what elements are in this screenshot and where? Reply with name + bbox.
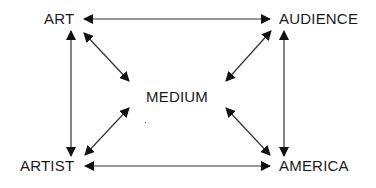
node-artist: ARTIST (20, 158, 74, 174)
stray-dot (145, 122, 146, 123)
edge-audience-medium (226, 31, 271, 81)
diagram-canvas: ART AUDIENCE MEDIUM ARTIST AMERICA (0, 0, 376, 188)
node-medium: MEDIUM (146, 89, 208, 105)
node-america: AMERICA (279, 158, 349, 174)
node-audience: AUDIENCE (279, 11, 358, 27)
edge-art-medium (84, 33, 129, 81)
edge-artist-medium (85, 108, 129, 155)
edge-america-medium (226, 108, 270, 155)
node-art: ART (44, 11, 74, 27)
